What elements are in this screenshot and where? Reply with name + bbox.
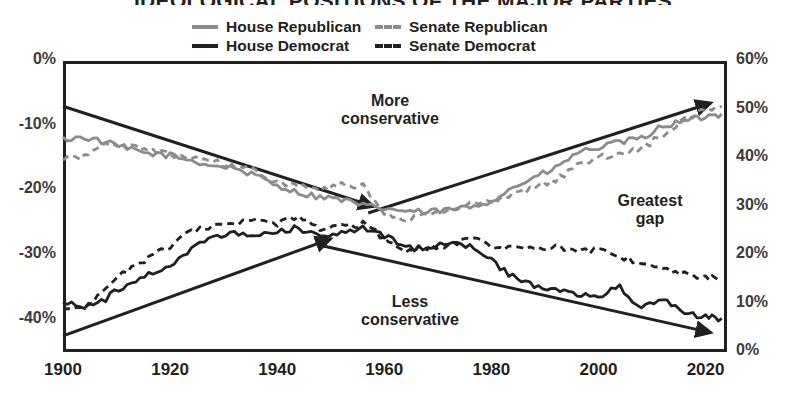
x-tick-0: 1900 [44,360,82,380]
x-tick-5: 2000 [580,360,618,380]
x-tick-4: 1980 [472,360,510,380]
annotation-more-conservative: More conservative [300,92,480,128]
annotation-greatest-gap: Greatest gap [575,192,725,228]
annotation-more-conservative-line2: conservative [300,110,480,128]
x-tick-3: 1960 [365,360,403,380]
x-tick-2: 1940 [258,360,296,380]
annotation-less-conservative-line1: Less [320,293,500,311]
x-tick-1: 1920 [151,360,189,380]
annotation-less-conservative-line2: conservative [320,311,500,329]
annotation-more-conservative-line1: More [300,92,480,110]
lower-converging-arrow [63,239,331,336]
annotation-greatest-gap-line1: Greatest [575,192,725,210]
x-tick-6: 2020 [687,360,725,380]
annotation-greatest-gap-line2: gap [575,210,725,228]
annotation-less-conservative: Less conservative [320,293,500,329]
chart-page: IDEOLOGICAL POSITIONS OF THE MAJOR PARTI… [0,0,806,393]
